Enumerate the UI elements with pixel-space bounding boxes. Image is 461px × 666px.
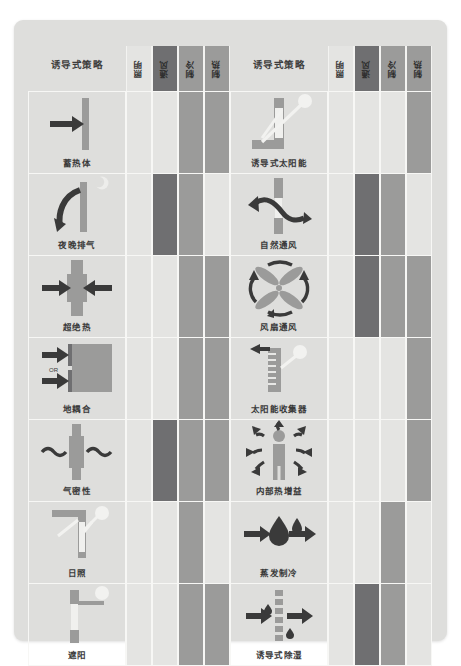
metric-cell-cooling[interactable] [380, 584, 406, 665]
metric-cell-lighting[interactable] [328, 420, 354, 501]
metric-cell-ventilation[interactable] [152, 420, 178, 501]
metric-cell-lighting[interactable] [328, 338, 354, 419]
metric-header-label: 制热 [415, 59, 424, 78]
strategy-label: 太阳能收集器 [251, 402, 307, 416]
metric-cell-cooling[interactable] [178, 502, 204, 583]
metric-cell-heating[interactable] [204, 584, 230, 665]
metric-cell-heating[interactable] [406, 584, 432, 665]
strategy-cell: 超绝热 [28, 256, 126, 337]
metric-cell-lighting[interactable] [126, 256, 152, 337]
metric-cell-cooling[interactable] [380, 420, 406, 501]
metric-header-label: 照明 [135, 59, 144, 78]
metric-cell-cooling[interactable] [380, 256, 406, 337]
metric-cell-cooling[interactable] [178, 92, 204, 173]
metric-cell-ventilation[interactable] [152, 174, 178, 255]
metric-cell-heating[interactable] [406, 502, 432, 583]
panel-rows: 蓄热体 夜晚排气 超绝热 OR地耦合 气密性 [28, 91, 230, 666]
metric-cell-cooling[interactable] [380, 92, 406, 173]
metric-header-row: 照明通风制冷制热 [126, 36, 230, 91]
metric-cell-lighting[interactable] [126, 584, 152, 665]
metric-cell-ventilation[interactable] [152, 338, 178, 419]
metric-cells [328, 420, 432, 501]
metric-cell-lighting[interactable] [126, 420, 152, 501]
table-row[interactable]: OR地耦合 [28, 337, 230, 419]
internal-gains-icon [231, 420, 327, 484]
metric-cell-ventilation[interactable] [152, 92, 178, 173]
metric-cell-lighting[interactable] [126, 92, 152, 173]
metric-cell-heating[interactable] [406, 420, 432, 501]
table-row[interactable]: 诱导式太阳能 [230, 91, 432, 173]
panel-rows: 诱导式太阳能 自然通风 风扇通风 [230, 91, 432, 666]
strategy-cell: 蓄热体 [28, 92, 126, 173]
metric-cell-lighting[interactable] [328, 174, 354, 255]
strategy-label: 遮阳 [68, 648, 87, 662]
panel-header: 诱导式策略照明通风制冷制热 [28, 36, 230, 91]
metric-cell-ventilation[interactable] [354, 584, 380, 665]
metric-cell-lighting[interactable] [328, 256, 354, 337]
metric-cell-ventilation[interactable] [354, 420, 380, 501]
metric-cell-cooling[interactable] [178, 174, 204, 255]
strategy-column-header: 诱导式策略 [28, 36, 126, 91]
svg-text:OR: OR [49, 367, 59, 373]
metric-cell-heating[interactable] [406, 338, 432, 419]
metric-header-cooling[interactable]: 制冷 [178, 46, 204, 91]
metric-header-ventilation[interactable]: 通风 [354, 46, 380, 91]
metric-cell-heating[interactable] [406, 92, 432, 173]
table-row[interactable]: 自然通风 [230, 173, 432, 255]
metric-cell-lighting[interactable] [328, 92, 354, 173]
panel-header: 诱导式策略照明通风制冷制热 [230, 36, 432, 91]
metric-cell-cooling[interactable] [380, 502, 406, 583]
metric-cell-ventilation[interactable] [354, 256, 380, 337]
metric-cell-heating[interactable] [204, 420, 230, 501]
table-row[interactable]: 夜晚排气 [28, 173, 230, 255]
metric-cell-lighting[interactable] [126, 174, 152, 255]
table-row[interactable]: 太阳能收集器 [230, 337, 432, 419]
metric-cell-lighting[interactable] [126, 502, 152, 583]
table-row[interactable]: 气密性 [28, 419, 230, 501]
table-row[interactable]: 风扇通风 [230, 255, 432, 337]
table-row[interactable]: 日照 [28, 501, 230, 583]
metric-cell-ventilation[interactable] [354, 338, 380, 419]
metric-cell-heating[interactable] [406, 256, 432, 337]
metric-cells [126, 92, 230, 173]
metric-cell-ventilation[interactable] [354, 174, 380, 255]
metric-header-heating[interactable]: 制热 [406, 46, 432, 91]
metric-cell-heating[interactable] [204, 338, 230, 419]
metric-cell-lighting[interactable] [328, 584, 354, 665]
metric-cell-lighting[interactable] [126, 338, 152, 419]
table-row[interactable]: 遮阳 [28, 583, 230, 666]
metric-cell-ventilation[interactable] [152, 584, 178, 665]
metric-cell-cooling[interactable] [178, 420, 204, 501]
metric-header-cooling[interactable]: 制冷 [380, 46, 406, 91]
metric-cell-cooling[interactable] [380, 174, 406, 255]
metric-cell-cooling[interactable] [380, 338, 406, 419]
super-insulation-icon [29, 256, 125, 320]
metric-header-heating[interactable]: 制热 [204, 46, 230, 91]
metric-cell-heating[interactable] [204, 174, 230, 255]
strategy-cell: 诱导式除湿 [230, 584, 328, 665]
strategy-cell: 自然通风 [230, 174, 328, 255]
metric-cell-ventilation[interactable] [152, 502, 178, 583]
table-row[interactable]: 蓄热体 [28, 91, 230, 173]
metric-cell-heating[interactable] [204, 256, 230, 337]
metric-cell-heating[interactable] [204, 502, 230, 583]
metric-cell-cooling[interactable] [178, 584, 204, 665]
metric-cell-ventilation[interactable] [152, 256, 178, 337]
metric-cell-cooling[interactable] [178, 256, 204, 337]
metric-cell-heating[interactable] [204, 92, 230, 173]
strategy-label: 日照 [68, 566, 87, 580]
table-row[interactable]: 诱导式除湿 [230, 583, 432, 666]
table-row[interactable]: 超绝热 [28, 255, 230, 337]
strategy-cell: 太阳能收集器 [230, 338, 328, 419]
metric-header-lighting[interactable]: 照明 [328, 46, 354, 91]
metric-cell-heating[interactable] [406, 174, 432, 255]
metric-header-label: 照明 [337, 59, 346, 78]
table-row[interactable]: 内部热增益 [230, 419, 432, 501]
table-row[interactable]: 蒸发制冷 [230, 501, 432, 583]
metric-cell-ventilation[interactable] [354, 92, 380, 173]
metric-cell-cooling[interactable] [178, 338, 204, 419]
metric-header-lighting[interactable]: 照明 [126, 46, 152, 91]
metric-cell-lighting[interactable] [328, 502, 354, 583]
metric-cell-ventilation[interactable] [354, 502, 380, 583]
metric-header-ventilation[interactable]: 通风 [152, 46, 178, 91]
